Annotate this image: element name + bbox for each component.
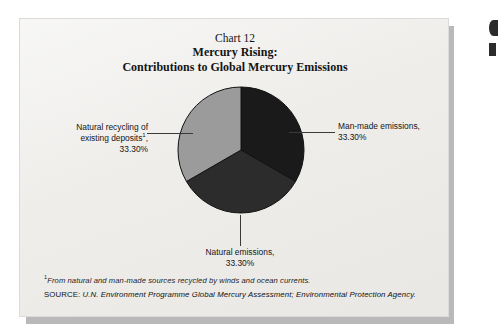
slice-label-man-made: Man-made emissions, 33.30% xyxy=(338,121,446,143)
slice-label-recycling-line-2: existing deposits1, xyxy=(42,133,148,144)
footnote-text: From natural and man-made sources recycl… xyxy=(47,276,310,285)
slice-label-manmade-line-1: Man-made emissions, xyxy=(338,121,446,132)
slice-label-recycling-line-1: Natural recycling of xyxy=(42,122,148,133)
slice-label-manmade-value: 33.30% xyxy=(338,132,446,143)
slice-label-natural-line-1: Natural emissions, xyxy=(180,247,300,258)
slice-label-natural-emissions: Natural emissions, 33.30% xyxy=(180,247,300,269)
leader-line-natural-emissions xyxy=(240,215,241,246)
slice-label-recycling-line-2-comma: , xyxy=(146,133,148,143)
chart-card: Chart 12 Mercury Rising: Contributions t… xyxy=(19,18,449,317)
pie-svg xyxy=(176,85,306,215)
footnote-line: 1From natural and man-made sources recyc… xyxy=(44,275,438,287)
source-text: U.N. Environment Programme Global Mercur… xyxy=(83,290,416,299)
slice-label-recycling-line-2-text: existing deposits xyxy=(80,133,142,143)
leader-line-man-made xyxy=(289,132,335,133)
source-label: SOURCE: xyxy=(44,290,80,299)
adjacent-page-mark-top xyxy=(489,20,498,36)
slice-label-recycling-value: 33.30% xyxy=(42,144,148,155)
pie-chart xyxy=(176,85,306,215)
slice-label-natural-value: 33.30% xyxy=(180,258,300,269)
source-line: SOURCE: U.N. Environment Programme Globa… xyxy=(44,289,438,301)
footnotes-block: 1From natural and man-made sources recyc… xyxy=(44,275,438,301)
chart-title-line-1: Mercury Rising: xyxy=(20,45,450,60)
adjacent-page-mark-bottom xyxy=(489,43,496,56)
chart-header: Chart 12 Mercury Rising: Contributions t… xyxy=(20,31,450,74)
chart-number: Chart 12 xyxy=(20,31,450,45)
scanned-page: Chart 12 Mercury Rising: Contributions t… xyxy=(0,0,498,333)
leader-line-natural-recycling xyxy=(147,133,193,134)
slice-label-natural-recycling: Natural recycling of existing deposits1,… xyxy=(42,122,148,155)
chart-title-line-2: Contributions to Global Mercury Emission… xyxy=(20,60,450,75)
